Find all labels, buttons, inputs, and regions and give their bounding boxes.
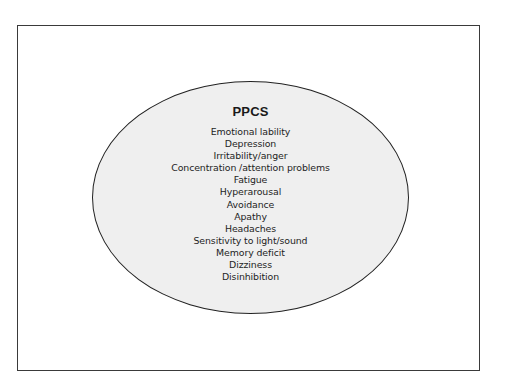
symptom-item: Emotional lability bbox=[92, 126, 409, 138]
symptom-item: Sensitivity to light/sound bbox=[92, 235, 409, 247]
symptom-item: Fatigue bbox=[92, 174, 409, 186]
symptom-item: Disinhibition bbox=[92, 271, 409, 283]
symptom-item: Concentration /attention problems bbox=[92, 162, 409, 174]
symptom-item: Avoidance bbox=[92, 199, 409, 211]
ellipse-title: PPCS bbox=[92, 104, 409, 119]
symptom-item: Apathy bbox=[92, 211, 409, 223]
symptom-item: Hyperarousal bbox=[92, 186, 409, 198]
symptom-list: Emotional lability Depression Irritabili… bbox=[92, 126, 409, 283]
symptom-item: Headaches bbox=[92, 223, 409, 235]
symptom-item: Memory deficit bbox=[92, 247, 409, 259]
symptom-item: Irritability/anger bbox=[92, 150, 409, 162]
symptom-item: Dizziness bbox=[92, 259, 409, 271]
symptom-item: Depression bbox=[92, 138, 409, 150]
